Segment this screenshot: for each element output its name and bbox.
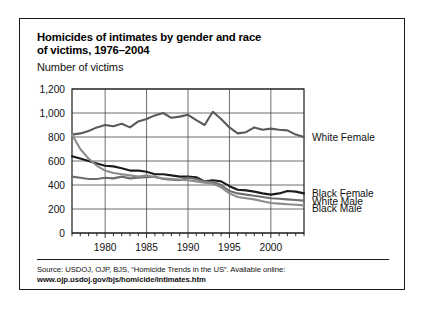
x-axis-tick-label: 1990 (177, 242, 200, 253)
source-divider (37, 259, 389, 260)
x-axis-tick-label: 1995 (218, 242, 241, 253)
source-text: Source: USDOJ, OJP, BJS, “Homicide Trend… (37, 265, 389, 275)
series-label-black-male: Black Male (312, 203, 362, 214)
source-url: www.ojp.usdoj.gov/bjs/homicide/intimates… (37, 275, 389, 285)
y-axis-tick-label: 600 (48, 156, 65, 167)
x-axis-tick-label: 1980 (94, 242, 117, 253)
page-title-line-1: Homicides of intimates by gender and rac… (37, 31, 337, 44)
y-axis-tick-label: 1,000 (40, 108, 66, 119)
y-axis-tick-label: 800 (48, 132, 65, 143)
y-axis-tick-label: 1,200 (40, 84, 66, 95)
chart-subtitle: Number of victims (37, 60, 337, 74)
y-axis-tick-label: 400 (48, 180, 65, 191)
x-axis-tick-label: 1985 (135, 242, 158, 253)
y-axis-tick-label: 200 (48, 204, 65, 215)
line-chart: 02004006008001,0001,20019801985199019952… (20, 81, 406, 253)
x-axis-tick-label: 2000 (260, 242, 283, 253)
chart-plot-area: 02004006008001,0001,20019801985199019952… (20, 81, 406, 253)
source-note: Source: USDOJ, OJP, BJS, “Homicide Trend… (37, 259, 389, 285)
page-title-line-2: of victims, 1976–2004 (37, 44, 337, 57)
title-block: Homicides of intimates by gender and rac… (37, 31, 337, 74)
y-axis-tick-label: 0 (59, 228, 65, 239)
figure-panel: Homicides of intimates by gender and rac… (19, 18, 405, 290)
series-label-white-female: White Female (312, 132, 375, 143)
